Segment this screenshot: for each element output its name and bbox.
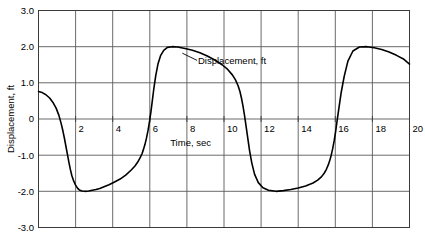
x-tick-label: 12 [264, 123, 275, 134]
y-tick-label: -1.0 [18, 150, 34, 161]
y-tick-label: -3.0 [18, 222, 34, 233]
x-tick-label: 10 [227, 123, 238, 134]
y-tick-label: 1.0 [21, 77, 34, 88]
x-axis-title: Time, sec [170, 137, 211, 148]
x-tick-label: 8 [190, 123, 195, 134]
y-tick-label: 3.0 [21, 5, 34, 16]
x-tick-label: 18 [375, 123, 386, 134]
x-tick-label: 6 [153, 123, 158, 134]
x-tick-label: 14 [301, 123, 312, 134]
y-tick-label: -2.0 [18, 186, 34, 197]
y-tick-label: 0 [29, 113, 34, 124]
chart-figure: 3.02.01.00-1.0-2.0-3.0 2468101214161820 … [0, 0, 425, 240]
chart-background [0, 0, 425, 240]
y-axis-title: Displacement, ft [5, 85, 16, 153]
x-tick-label: 20 [413, 123, 424, 134]
y-tick-label: 2.0 [21, 41, 34, 52]
x-tick-label: 4 [116, 123, 121, 134]
x-tick-label: 2 [79, 123, 84, 134]
curve-annotation-label: Displacement, ft [198, 55, 266, 66]
x-tick-label: 16 [338, 123, 349, 134]
displacement-vs-time-chart: 3.02.01.00-1.0-2.0-3.0 2468101214161820 … [0, 0, 425, 240]
